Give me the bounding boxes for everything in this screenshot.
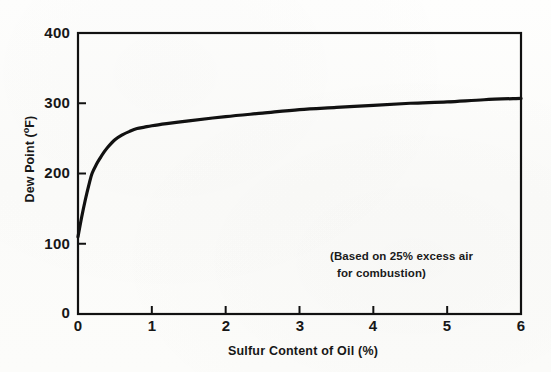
y-axis-title-tail: F) xyxy=(23,116,37,128)
figure-container: 400 300 200 100 0 0 1 2 3 4 5 6 Dew Poin… xyxy=(0,0,551,372)
data-curve-dew-point xyxy=(78,98,521,236)
x-axis-title: Sulfur Content of Oil (%) xyxy=(178,344,428,358)
y-tick-label-400: 400 xyxy=(24,24,70,41)
y-axis-title-main: Dew Point ( xyxy=(23,133,37,202)
annotation-line-2: for combustion) xyxy=(330,265,473,282)
y-axis-title: Dew Point (oF) xyxy=(23,99,37,219)
y-tick-label-100: 100 xyxy=(24,235,70,252)
y-axis-title-degree: o xyxy=(21,128,31,134)
x-axis-ticks xyxy=(152,306,447,314)
chart-annotation: (Based on 25% excess air for combustion) xyxy=(330,248,473,281)
x-tick-label-4: 4 xyxy=(359,317,387,334)
x-tick-label-3: 3 xyxy=(286,317,314,334)
x-tick-label-2: 2 xyxy=(212,317,240,334)
annotation-line-1: (Based on 25% excess air xyxy=(330,248,473,265)
x-tick-label-0: 0 xyxy=(64,317,92,334)
x-tick-label-1: 1 xyxy=(138,317,166,334)
x-tick-label-6: 6 xyxy=(507,317,535,334)
x-tick-label-5: 5 xyxy=(433,317,461,334)
